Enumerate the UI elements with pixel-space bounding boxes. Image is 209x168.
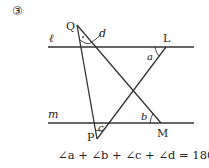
angle-arc-a: [155, 47, 159, 56]
line-label-m: m: [48, 108, 58, 121]
point-label-m: M: [157, 127, 168, 140]
angle-label-d: d: [99, 27, 106, 40]
angle-label-a: a: [147, 51, 153, 62]
angle-label-c: c: [98, 122, 104, 133]
problem-number: ③: [12, 4, 23, 18]
line-label-l: ℓ: [49, 32, 54, 45]
angle-arc-d: [80, 34, 101, 44]
angle-dot-q: [82, 36, 84, 38]
angle-sum-equation: ∠a + ∠b + ∠c + ∠d = 180°: [58, 148, 209, 162]
segment-QP: [77, 25, 97, 139]
point-label-q: Q: [66, 20, 75, 33]
angle-label-b: b: [141, 111, 147, 122]
angle-arc-b: [150, 114, 153, 123]
segment-QM: [77, 25, 161, 123]
point-label-p: P: [87, 131, 95, 144]
geometry-diagram: ③ Q d ℓ L a m b c P M ∠a + ∠b + ∠c + ∠d …: [0, 0, 209, 168]
point-label-l: L: [163, 32, 171, 45]
